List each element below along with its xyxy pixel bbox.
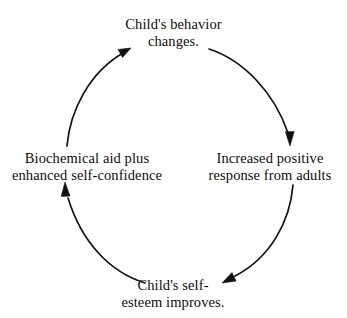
arrow-right-to-bottom-arc: [235, 185, 293, 276]
arrow-right-to-bottom: [222, 185, 293, 283]
arrow-left-to-top: [67, 48, 131, 146]
node-biochemical-aid-self-confidence-line1: Biochemical aid plus: [3, 150, 171, 167]
node-child-self-esteem-improves-line1: Child's self-: [97, 277, 249, 294]
node-child-behavior-changes-line2: changes.: [0, 33, 347, 50]
node-biochemical-aid-self-confidence-line2: enhanced self-confidence: [3, 167, 171, 184]
node-increased-positive-response-line1: Increased positive: [197, 150, 343, 167]
node-child-behavior-changes-line1: Child's behavior: [0, 16, 347, 33]
cycle-diagram: Child's behavior changes. Increased posi…: [0, 0, 347, 318]
node-child-behavior-changes: Child's behavior changes.: [0, 16, 347, 50]
arrow-left-to-top-arc: [67, 53, 123, 146]
arrow-bottom-to-left: [61, 182, 145, 283]
arrow-top-to-right: [209, 49, 294, 146]
node-child-self-esteem-improves: Child's self- esteem improves.: [97, 277, 249, 311]
arrow-top-to-right-head-icon: [285, 132, 294, 146]
node-increased-positive-response-line2: response from adults: [197, 167, 343, 184]
node-increased-positive-response: Increased positive response from adults: [197, 150, 343, 184]
arrow-bottom-to-left-arc: [68, 198, 145, 283]
arrow-bottom-to-left-head-icon: [61, 182, 70, 196]
node-biochemical-aid-self-confidence: Biochemical aid plus enhanced self-confi…: [3, 150, 171, 184]
node-child-self-esteem-improves-line2: esteem improves.: [97, 294, 249, 311]
arrow-top-to-right-arc: [209, 49, 288, 133]
